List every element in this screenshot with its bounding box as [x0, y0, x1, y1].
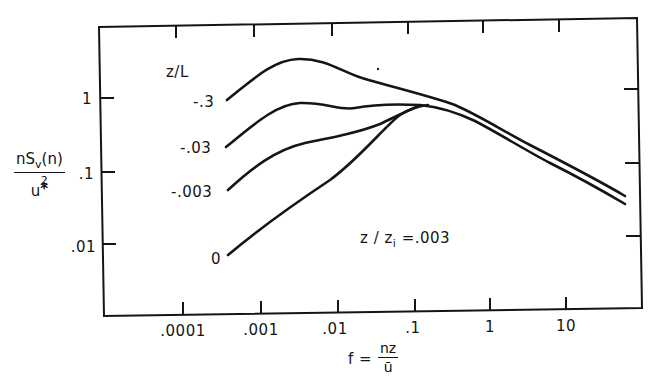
x-axis-label-lhs: f =	[348, 350, 372, 368]
annotation-z-over-zi: z / zi =.003	[360, 229, 450, 250]
y-axis-numerator: nSv(n)	[14, 150, 65, 173]
curve-zl-neg0.003	[228, 106, 420, 190]
right-ticks	[624, 89, 640, 236]
y-tick-0.1: .1	[79, 165, 94, 183]
scan-speck	[377, 68, 379, 70]
x-tick-10: 10	[556, 317, 576, 335]
y-axis-label: nSv(n) u2*	[14, 150, 65, 199]
series-label-neg0.3: -.3	[193, 93, 214, 111]
y-tick-1: 1	[82, 90, 92, 108]
x-tick-0.0001: .0001	[160, 322, 205, 340]
curve-zl-neg0.3	[227, 59, 625, 196]
x-axis-label-fraction: nz ū	[378, 340, 398, 375]
x-axis-denominator: ū	[378, 358, 398, 375]
y-tick-0.01: .01	[71, 238, 96, 256]
x-tick-0.001: .001	[243, 321, 278, 339]
series-label-neg0.003: -.003	[171, 183, 212, 201]
y-axis-denominator: u2*	[14, 173, 65, 199]
x-tick-0.1: .1	[405, 319, 420, 337]
series-label-0: 0	[211, 250, 221, 268]
curve-zl-neg0.03	[226, 103, 625, 204]
x-axis-numerator: nz	[378, 340, 398, 358]
x-tick-1: 1	[485, 318, 495, 336]
series-label-neg0.03: -.03	[180, 139, 211, 157]
legend-title: z/L	[166, 63, 189, 81]
x-tick-0.01: .01	[322, 320, 347, 338]
